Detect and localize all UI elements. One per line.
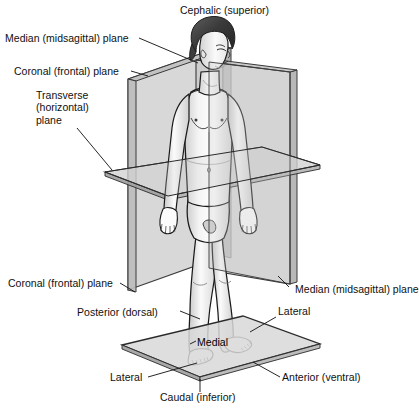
label-medial: Medial (197, 336, 228, 348)
label-lateral-right: Lateral (278, 305, 310, 317)
label-transverse-horizontal-plane: Transverse (horizontal) plane (36, 89, 126, 126)
label-coronal-frontal-plane-top: Coronal (frontal) plane (14, 65, 119, 77)
transverse-line-3: plane (36, 114, 62, 126)
label-median-midsagittal-plane-top: Median (midsagittal) plane (5, 32, 129, 44)
label-lateral-left: Lateral (110, 371, 142, 383)
label-coronal-frontal-plane-bottom: Coronal (frontal) plane (8, 277, 113, 289)
label-anterior-ventral: Anterior (ventral) (282, 371, 361, 383)
transverse-line-2: (horizontal) (36, 101, 89, 113)
label-caudal-inferior: Caudal (inferior) (160, 391, 236, 403)
label-median-midsagittal-plane-bottom: Median (midsagittal) plane (295, 283, 419, 295)
transverse-line-1: Transverse (36, 89, 88, 101)
label-cephalic-superior: Cephalic (superior) (180, 4, 269, 16)
label-posterior-dorsal: Posterior (dorsal) (77, 306, 158, 318)
